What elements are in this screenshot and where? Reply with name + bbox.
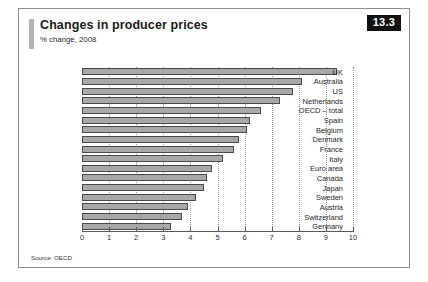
category-label: Sweden bbox=[316, 193, 343, 202]
category-label: Euro area bbox=[310, 164, 343, 173]
bar-row bbox=[82, 136, 239, 143]
bar-row bbox=[82, 97, 280, 104]
bar-row bbox=[82, 203, 188, 210]
category-label: OECD – total bbox=[299, 106, 343, 115]
bar-row bbox=[82, 126, 247, 133]
x-axis-tick bbox=[82, 227, 83, 231]
bar-row bbox=[82, 146, 234, 153]
title-accent-bar bbox=[29, 19, 34, 49]
x-axis-tick-label: 1 bbox=[107, 233, 111, 242]
category-label: Italy bbox=[329, 155, 343, 164]
bar-row bbox=[82, 117, 250, 124]
x-axis-tick bbox=[353, 227, 354, 231]
bar bbox=[82, 126, 247, 133]
bar bbox=[82, 213, 182, 220]
page-title: Changes in producer prices bbox=[40, 18, 208, 32]
chart-panel: Changes in producer prices % change, 200… bbox=[18, 8, 410, 268]
x-axis-tick bbox=[218, 227, 219, 231]
bar-row bbox=[82, 213, 182, 220]
x-axis-tick-label: 10 bbox=[349, 233, 357, 242]
bar bbox=[82, 107, 261, 114]
x-axis-tick bbox=[299, 227, 300, 231]
bar bbox=[82, 174, 207, 181]
bar-row bbox=[82, 88, 293, 95]
x-axis-tick-label: 4 bbox=[188, 233, 192, 242]
chart-screenshot: Changes in producer prices % change, 200… bbox=[0, 0, 428, 282]
bar bbox=[82, 88, 293, 95]
bar bbox=[82, 117, 250, 124]
category-label: Switzerland bbox=[304, 213, 343, 222]
x-axis-tick bbox=[190, 227, 191, 231]
x-axis-tick-label: 7 bbox=[270, 233, 274, 242]
x-axis-tick-label: 3 bbox=[161, 233, 165, 242]
x-axis-tick-label: 8 bbox=[297, 233, 301, 242]
bar bbox=[82, 136, 239, 143]
category-label: Netherlands bbox=[303, 97, 343, 106]
bar bbox=[82, 97, 280, 104]
x-axis-tick bbox=[136, 227, 137, 231]
bar-row bbox=[82, 174, 207, 181]
bar bbox=[82, 155, 223, 162]
bar-row bbox=[82, 165, 212, 172]
category-label: Canada bbox=[317, 174, 343, 183]
x-axis-tick-label: 6 bbox=[243, 233, 247, 242]
category-label: US bbox=[333, 87, 343, 96]
bar bbox=[82, 146, 234, 153]
bar-row bbox=[82, 78, 302, 85]
x-axis-tick bbox=[272, 227, 273, 231]
figure-number-badge: 13.3 bbox=[367, 15, 401, 31]
bar-row bbox=[82, 223, 171, 230]
category-label: Australia bbox=[314, 77, 343, 86]
bar bbox=[82, 223, 171, 230]
category-label: Austria bbox=[320, 203, 343, 212]
bar bbox=[82, 194, 196, 201]
bar-row bbox=[82, 155, 223, 162]
bar bbox=[82, 78, 302, 85]
x-axis-tick-label: 9 bbox=[324, 233, 328, 242]
category-label: France bbox=[320, 145, 343, 154]
x-axis-tick bbox=[245, 227, 246, 231]
source-note: Source: OECD bbox=[31, 254, 72, 261]
bar-row bbox=[82, 184, 204, 191]
bar bbox=[82, 165, 212, 172]
x-axis-tick bbox=[163, 227, 164, 231]
bar bbox=[82, 184, 204, 191]
chart-subtitle: % change, 2008 bbox=[40, 35, 96, 44]
x-axis-tick-label: 5 bbox=[215, 233, 219, 242]
x-axis-tick bbox=[109, 227, 110, 231]
category-label: Japan bbox=[323, 184, 343, 193]
category-label: UK bbox=[333, 68, 343, 77]
category-label: Belgium bbox=[316, 126, 343, 135]
plot-area bbox=[82, 67, 353, 231]
bar-row bbox=[82, 107, 261, 114]
bar-row bbox=[82, 194, 196, 201]
category-label: Denmark bbox=[313, 135, 343, 144]
category-label: Germany bbox=[312, 222, 343, 231]
category-label: Spain bbox=[324, 116, 343, 125]
gridline bbox=[353, 67, 354, 231]
bar-row bbox=[82, 68, 337, 75]
gridline bbox=[299, 67, 300, 231]
bar bbox=[82, 203, 188, 210]
x-axis-tick-label: 2 bbox=[134, 233, 138, 242]
bar bbox=[82, 68, 337, 75]
x-axis-tick-label: 0 bbox=[80, 233, 84, 242]
